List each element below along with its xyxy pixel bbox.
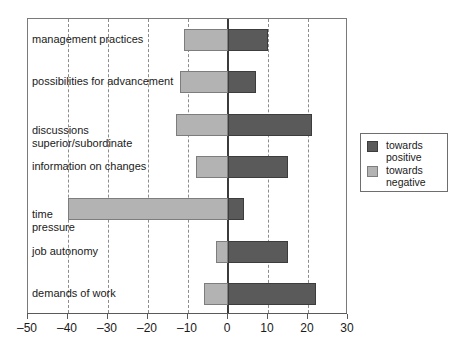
- gridline: [188, 19, 189, 313]
- category-label-2: discussions superior/subordinate: [32, 124, 132, 150]
- legend-label-positive: towards positive: [386, 140, 423, 163]
- bar-pos-0: [228, 29, 268, 51]
- bar-neg-1: [180, 71, 228, 93]
- x-tick: [307, 314, 308, 319]
- category-label-3: information on changes: [32, 160, 146, 173]
- x-tick-label-8: 30: [340, 321, 353, 335]
- x-tick: [347, 314, 348, 319]
- bar-pos-3: [228, 156, 288, 178]
- gridline: [308, 19, 309, 313]
- x-tick-label-2: –30: [97, 321, 117, 335]
- gridline: [148, 19, 149, 313]
- bar-pos-2: [228, 114, 312, 136]
- x-tick-label-7: 20: [300, 321, 313, 335]
- bar-neg-4: [68, 198, 228, 220]
- legend-label-negative: towards negative: [386, 165, 426, 188]
- x-tick: [187, 314, 188, 319]
- category-label-5: job autonomy: [32, 245, 98, 258]
- bar-neg-3: [196, 156, 228, 178]
- x-tick: [267, 314, 268, 319]
- x-tick-label-6: 10: [260, 321, 273, 335]
- bar-pos-5: [228, 241, 288, 263]
- bar-pos-6: [228, 283, 316, 305]
- x-tick: [67, 314, 68, 319]
- category-label-6: demands of work: [32, 287, 116, 300]
- bar-pos-1: [228, 71, 256, 93]
- x-tick: [147, 314, 148, 319]
- positive-swatch-icon: [367, 141, 378, 152]
- bar-neg-5: [216, 241, 228, 263]
- category-label-1: possibilities for advancement: [32, 75, 173, 88]
- x-tick-label-3: –20: [137, 321, 157, 335]
- bar-neg-0: [184, 29, 228, 51]
- x-tick: [107, 314, 108, 319]
- x-tick-label-1: –40: [57, 321, 77, 335]
- bar-neg-6: [204, 283, 228, 305]
- legend-item-positive: towards positive: [367, 140, 423, 163]
- x-tick-label-5: 0: [224, 321, 231, 335]
- bar-pos-4: [228, 198, 244, 220]
- x-tick: [27, 314, 28, 319]
- category-label-4: time pressure: [32, 208, 75, 234]
- x-tick-label-0: –50: [17, 321, 37, 335]
- horizontal-bar-chart: –50–40–30–20–100102030 management practi…: [0, 0, 456, 355]
- bar-neg-2: [176, 114, 228, 136]
- x-tick-label-4: –10: [177, 321, 197, 335]
- legend-item-negative: towards negative: [367, 165, 426, 188]
- category-label-0: management practices: [32, 33, 143, 46]
- negative-swatch-icon: [367, 166, 378, 177]
- chart-legend: towards positive towards negative: [360, 133, 448, 192]
- x-tick: [227, 314, 228, 319]
